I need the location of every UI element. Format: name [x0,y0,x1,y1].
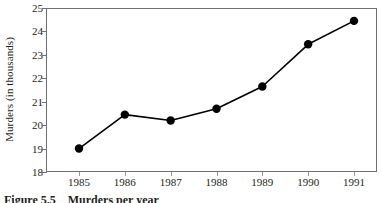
data-point-marker [258,82,266,90]
data-point-marker [166,116,174,124]
line-chart-plot [46,8,377,172]
data-point-marker [75,144,83,152]
figure-caption: Figure 5.5 Murders per year [4,194,380,203]
x-axis-tick-label: 1988 [206,177,228,188]
x-axis-tick-label: 1986 [114,177,136,188]
x-axis-tick-labels: 1985198619871988198919901991 [46,177,377,193]
data-point-marker [121,110,129,118]
x-axis-tick-label: 1991 [343,177,365,188]
x-axis-tick-label: 1990 [297,177,319,188]
figure-caption-text: Murders per year [68,194,159,203]
x-axis-tick-label: 1985 [68,177,90,188]
data-line-murders [79,21,354,149]
data-point-marker [350,17,358,25]
x-axis-tick-label: 1989 [251,177,273,188]
y-axis-title-text: Murders (in thousands) [4,37,15,142]
figure-caption-label: Figure 5.5 [4,194,56,203]
y-axis-title: Murders (in thousands) [0,0,18,178]
x-axis-tick-label: 1987 [160,177,182,188]
data-point-marker [212,105,220,113]
data-point-marker [304,40,312,48]
data-point-markers [75,17,358,153]
figure-container: Murders (in thousands) 1819202122232425 … [0,0,382,203]
